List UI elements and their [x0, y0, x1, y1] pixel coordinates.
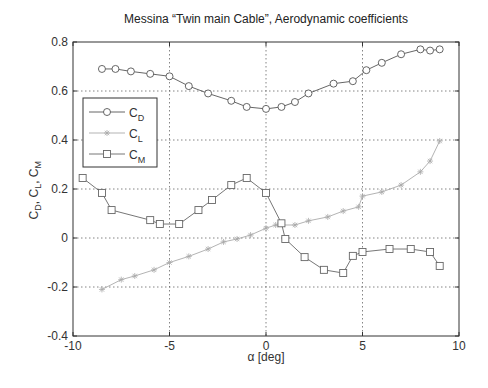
circle-marker: [243, 103, 250, 110]
square-marker: [208, 197, 215, 204]
square-marker: [427, 248, 434, 255]
square-marker: [195, 207, 202, 214]
star-marker: [248, 232, 254, 238]
square-marker: [349, 252, 356, 259]
circle-marker: [349, 78, 356, 85]
star-marker: [427, 158, 433, 164]
square-marker: [359, 248, 366, 255]
circle-marker: [436, 46, 443, 53]
circle-marker: [228, 97, 235, 104]
circle-marker: [363, 67, 370, 74]
circle-marker: [104, 109, 111, 116]
y-tick-label: 0.8: [51, 35, 68, 49]
star-marker: [167, 260, 173, 266]
circle-marker: [417, 46, 424, 53]
circle-marker: [378, 59, 385, 66]
star-marker: [118, 277, 124, 283]
circle-marker: [263, 105, 270, 112]
y-tick-label: -0.2: [47, 280, 68, 294]
square-marker: [156, 221, 163, 228]
star-marker: [221, 239, 227, 245]
star-marker: [340, 208, 346, 214]
square-marker: [278, 220, 285, 227]
star-marker: [398, 182, 404, 188]
plot-area: -10-50510-0.4-0.200.20.40.60.8CDCLCM: [0, 0, 488, 388]
circle-marker: [112, 65, 119, 72]
star-marker: [99, 286, 105, 292]
square-marker: [320, 266, 327, 273]
square-marker: [108, 207, 115, 214]
y-tick-label: 0.4: [51, 133, 68, 147]
square-marker: [340, 270, 347, 277]
y-axis-label: CD, CL, CM: [27, 135, 43, 245]
star-marker: [205, 246, 211, 252]
circle-marker: [185, 83, 192, 90]
star-marker: [132, 273, 138, 279]
star-marker: [151, 267, 157, 273]
star-marker: [417, 169, 423, 175]
star-marker: [437, 138, 443, 144]
star-marker: [305, 218, 311, 224]
legend: CDCLCM: [83, 98, 157, 167]
circle-marker: [330, 80, 337, 87]
star-marker: [263, 225, 269, 231]
star-marker: [292, 222, 298, 228]
star-marker: [325, 214, 331, 220]
star-marker: [356, 204, 362, 210]
y-tick-label: 0.6: [51, 84, 68, 98]
circle-marker: [278, 103, 285, 110]
square-marker: [282, 235, 289, 242]
y-tick-label: -0.4: [47, 329, 68, 343]
square-marker: [147, 217, 154, 224]
star-marker: [186, 253, 192, 259]
star-marker: [104, 130, 110, 136]
circle-marker: [291, 99, 298, 106]
square-marker: [228, 182, 235, 189]
circle-marker: [98, 65, 105, 72]
circle-marker: [205, 90, 212, 97]
square-marker: [301, 254, 308, 261]
circle-marker: [305, 90, 312, 97]
x-axis-label: α [deg]: [73, 350, 459, 364]
circle-marker: [427, 47, 434, 54]
square-marker: [386, 246, 393, 253]
y-tick-label: 0.2: [51, 182, 68, 196]
circle-marker: [147, 70, 154, 77]
square-marker: [79, 174, 86, 181]
square-marker: [436, 262, 443, 269]
star-marker: [234, 236, 240, 242]
y-tick-label: 0: [61, 231, 68, 245]
square-marker: [98, 189, 105, 196]
square-marker: [407, 246, 414, 253]
square-marker: [243, 174, 250, 181]
circle-marker: [127, 68, 134, 75]
circle-marker: [398, 51, 405, 58]
square-marker: [176, 221, 183, 228]
star-marker: [360, 193, 366, 199]
star-marker: [379, 189, 385, 195]
square-marker: [263, 189, 270, 196]
circle-marker: [166, 73, 173, 80]
square-marker: [104, 151, 111, 158]
